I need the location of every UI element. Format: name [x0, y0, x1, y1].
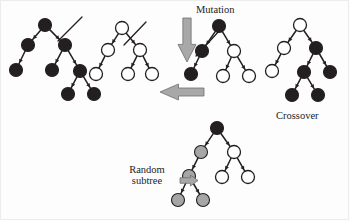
- tree-node-black: [324, 66, 337, 79]
- label-mutation: Mutation: [196, 4, 235, 15]
- tree-node-black: [298, 66, 311, 79]
- tree-node-white: [146, 68, 159, 81]
- tree-node-black: [46, 64, 59, 77]
- tree-node-white: [228, 45, 241, 58]
- tree-node-white: [134, 44, 147, 57]
- tree-node-white: [216, 171, 229, 184]
- tree-node-white: [90, 68, 103, 81]
- tree-node-black: [286, 89, 299, 102]
- label-random-subtree-line1: Random: [117, 164, 177, 175]
- tree-edge: [111, 33, 119, 46]
- tree-node-white: [242, 171, 255, 184]
- label-crossover: Crossover: [276, 110, 319, 121]
- tree-edge: [71, 76, 78, 89]
- tree-node-gray: [172, 194, 185, 207]
- tree-edge: [193, 56, 199, 69]
- tree-edge: [32, 29, 42, 41]
- tree-node-black: [185, 68, 198, 81]
- tree-node-black: [39, 19, 52, 32]
- tree-node-black: [312, 89, 325, 102]
- tree-node-black: [62, 88, 75, 101]
- tree-node-white: [266, 65, 279, 78]
- crossover-arrow: [160, 84, 204, 100]
- tree-node-black: [196, 45, 209, 58]
- tree-edge: [130, 55, 137, 69]
- tree-edge: [225, 56, 232, 71]
- tree-edge: [275, 53, 282, 66]
- tree-edge: [307, 77, 315, 91]
- tree-node-white: [217, 70, 230, 83]
- tree-node-white: [278, 42, 291, 55]
- tree-node-white: [294, 19, 307, 32]
- tree-node-black: [74, 65, 87, 78]
- label-random-subtree: Random subtree: [117, 164, 177, 186]
- tree-node-black: [88, 88, 101, 101]
- tree-node-white: [116, 22, 129, 35]
- tree-node-black: [213, 20, 226, 33]
- tree-edge: [191, 157, 198, 171]
- tree-node-white: [102, 44, 115, 57]
- tree-node-gray: [195, 146, 208, 159]
- tree-node-black: [22, 39, 35, 52]
- tree-node-black: [211, 122, 224, 135]
- tree-node-white: [122, 68, 135, 81]
- tree-edge: [295, 77, 302, 90]
- mutation-arrow: [178, 18, 196, 62]
- tree-edge: [142, 55, 149, 69]
- label-random-subtree-line2: subtree: [117, 175, 177, 186]
- tree-node-white: [228, 146, 241, 159]
- tree-edge: [83, 76, 91, 90]
- tree-node-black: [59, 39, 72, 52]
- tree-node-black: [310, 42, 323, 55]
- tree-edge: [306, 53, 313, 67]
- tree-node-gray: [197, 194, 210, 207]
- tree-node-white: [243, 70, 256, 83]
- tree-edge: [98, 55, 105, 69]
- crossover-cut-mark: [58, 17, 82, 41]
- tree-node-black: [10, 64, 23, 77]
